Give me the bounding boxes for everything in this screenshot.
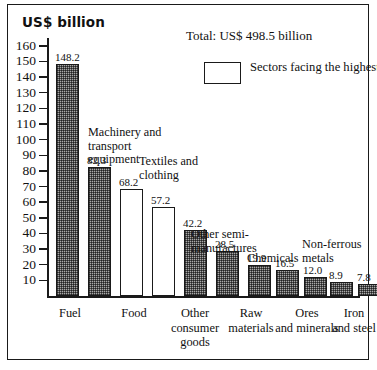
bar <box>120 189 143 296</box>
bar-value-label: 8.9 <box>329 270 343 281</box>
bar-chart-figure: US$ billion Total: US$ 498.5 billion Sec… <box>0 0 377 370</box>
bar <box>56 64 79 296</box>
bar-value-label: 148.2 <box>55 52 80 63</box>
bar-value-label: 12.0 <box>303 265 322 276</box>
y-tick-label: 50 <box>23 211 37 225</box>
y-tick-label: 10 <box>23 273 37 287</box>
bar <box>152 207 175 296</box>
y-tick-label: 80 <box>23 164 37 178</box>
y-tick-label: 130 <box>16 86 36 100</box>
x-axis-label: Fuel <box>40 306 100 321</box>
bar <box>276 270 299 296</box>
y-tick-label: 150 <box>16 54 36 68</box>
bar <box>304 277 327 296</box>
y-tick-label: 20 <box>23 258 37 272</box>
y-axis-title: US$ billion <box>22 14 105 30</box>
bar-value-label: 7.8 <box>357 272 371 283</box>
series-annotation: Non-ferrous metals <box>302 238 362 265</box>
y-tick-label: 30 <box>23 242 37 256</box>
bar <box>358 284 377 296</box>
x-axis-label: Food <box>104 306 164 321</box>
y-tick-label: 90 <box>23 148 37 162</box>
y-tick-label: 120 <box>16 101 36 115</box>
bar <box>330 282 353 296</box>
bar <box>248 265 271 296</box>
bar-value-label: 68.2 <box>119 177 138 188</box>
bar <box>88 167 111 296</box>
bar <box>216 251 239 296</box>
y-tick-label: 40 <box>23 226 37 240</box>
y-tick-label: 110 <box>16 117 36 131</box>
y-tick-label: 140 <box>16 70 36 84</box>
series-annotation: Textiles and clothing <box>139 155 198 182</box>
y-tick-label: 60 <box>23 195 37 209</box>
y-tick-label: 70 <box>23 180 37 194</box>
x-axis-line <box>47 296 360 298</box>
series-annotation: Chemicals <box>247 252 298 266</box>
y-tick-label: 160 <box>16 39 36 53</box>
y-tick-label: 100 <box>16 133 36 147</box>
bar-value-label: 57.2 <box>151 195 170 206</box>
x-axis-label: Iron and steel <box>321 306 377 335</box>
